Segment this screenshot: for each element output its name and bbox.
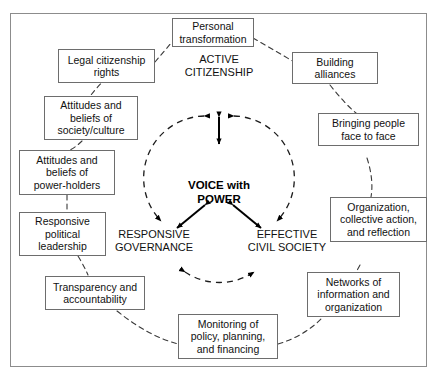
node-personal-transformation[interactable]: Personal transformation (172, 18, 254, 47)
center-voice-with-power: VOICE with POWER (169, 178, 269, 206)
node-attitudes-beliefs-power-holders[interactable]: Attitudes and beliefs of power-holders (19, 150, 115, 195)
node-attitudes-beliefs-society[interactable]: Attitudes and beliefs of society/culture (44, 96, 138, 140)
pillar-active-citizenship: ACTIVE CITIZENSHIP (168, 53, 270, 79)
node-transparency-accountability[interactable]: Transparency and accountability (45, 276, 145, 310)
node-bringing-people-face-to-face[interactable]: Bringing people face to face (318, 113, 419, 146)
node-organization-collective-action[interactable]: Organization, collective action, and ref… (330, 197, 427, 242)
pillar-effective-civil-society: EFFECTIVE CIVIL SOCIETY (237, 228, 337, 254)
diagram-canvas: VOICE with POWER ACTIVE CITIZENSHIP RESP… (0, 0, 438, 383)
pillar-responsive-governance: RESPONSIVE GOVERNANCE (104, 228, 204, 254)
node-responsive-political-leadership[interactable]: Responsive political leadership (19, 212, 106, 256)
node-building-alliances[interactable]: Building alliances (292, 52, 378, 84)
node-monitoring-policy[interactable]: Monitoring of policy, planning, and fina… (178, 314, 278, 359)
node-networks-information[interactable]: Networks of information and organization (307, 272, 400, 317)
node-legal-citizenship-rights[interactable]: Legal citizenship rights (58, 49, 155, 83)
